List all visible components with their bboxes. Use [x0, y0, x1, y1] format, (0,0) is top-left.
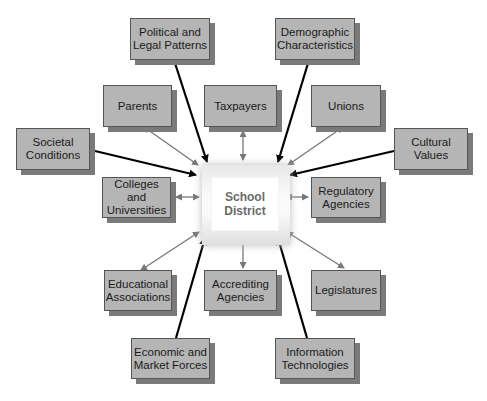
arrow-unions [288, 127, 343, 165]
node-demographic: DemographicCharacteristics [275, 18, 355, 60]
arrow-educational [141, 232, 199, 270]
node-economic: Economic andMarket Forces [131, 338, 210, 379]
node-unions: Unions [311, 85, 381, 127]
school-district-label: SchoolDistrict [211, 177, 279, 231]
node-educational: EducationalAssociations [104, 270, 172, 311]
node-cultural: CulturalValues [394, 128, 468, 170]
school-district-node: SchoolDistrict [202, 165, 290, 245]
arrow-economic [176, 238, 205, 338]
arrow-political [174, 60, 207, 162]
node-information: InformationTechnologies [275, 338, 355, 379]
node-accrediting: AccreditingAgencies [204, 270, 277, 311]
node-colleges: Colleges andUniversities [102, 177, 171, 218]
arrow-societal [95, 151, 196, 175]
arrow-cultural [290, 151, 394, 175]
node-regulatory: RegulatoryAgencies [311, 177, 381, 218]
node-taxpayers: Taxpayers [204, 85, 277, 127]
node-political: Political andLegal Patterns [130, 18, 210, 60]
node-legislatures: Legislatures [311, 270, 381, 311]
arrow-demographic [278, 60, 309, 162]
arrow-information [278, 238, 307, 338]
node-societal: SocietalConditions [16, 128, 90, 170]
arrow-parents [144, 127, 198, 165]
arrow-legislatures [287, 232, 344, 268]
node-parents: Parents [103, 85, 172, 127]
